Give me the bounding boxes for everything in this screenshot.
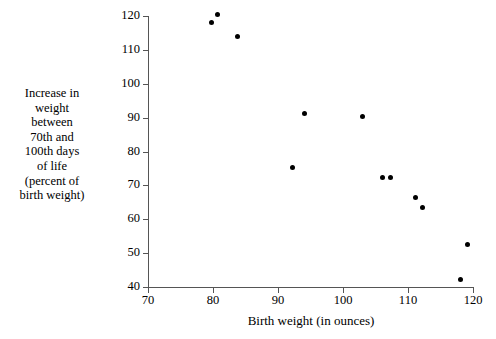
y-axis-tick-label: 110 (106, 43, 140, 56)
y-axis-title-line: Increase in (6, 86, 98, 101)
y-axis-title-line: between (6, 115, 98, 130)
data-point (235, 34, 240, 39)
data-point (360, 114, 365, 119)
x-axis-tick-label: 90 (258, 294, 298, 307)
data-point (302, 111, 307, 116)
x-axis-tick-label: 80 (193, 294, 233, 307)
y-axis-title-line: 70th and (6, 130, 98, 145)
scatter-plot-figure: Increase inweightbetween70th and100th da… (0, 0, 496, 339)
y-axis-title-line: 100th days (6, 144, 98, 159)
data-point (388, 175, 393, 180)
y-axis-tick-label: 100 (106, 77, 140, 90)
x-axis-tick-label: 70 (128, 294, 168, 307)
x-axis-tick-label: 110 (388, 294, 428, 307)
x-axis-line (148, 287, 474, 288)
y-axis-title: Increase inweightbetween70th and100th da… (6, 86, 98, 203)
y-axis-tick-label: 120 (106, 9, 140, 22)
y-axis-tick-label: 70 (106, 178, 140, 191)
y-axis-title-line: birth weight) (6, 188, 98, 203)
x-axis-tick-label: 120 (453, 294, 493, 307)
y-axis-tick-label: 80 (106, 145, 140, 158)
y-axis-tick-label: 40 (106, 280, 140, 293)
y-axis-title-line: of life (6, 159, 98, 174)
x-axis-tick-label: 100 (323, 294, 363, 307)
data-point (380, 175, 385, 180)
y-axis-title-line: (percent of (6, 174, 98, 189)
y-axis-tick-labels: 405060708090100110120 (100, 0, 140, 339)
data-point (458, 277, 463, 282)
y-axis-tick-label: 60 (106, 212, 140, 225)
y-axis-title-line: weight (6, 101, 98, 116)
data-point (209, 20, 214, 25)
data-point (465, 242, 470, 247)
x-axis-title: Birth weight (in ounces) (148, 313, 474, 329)
data-point (290, 165, 295, 170)
data-point (215, 12, 220, 17)
y-axis-tick-label: 90 (106, 111, 140, 124)
y-axis-tick-label: 50 (106, 246, 140, 259)
data-point (413, 195, 418, 200)
data-point (420, 205, 425, 210)
plot-area (148, 16, 473, 287)
